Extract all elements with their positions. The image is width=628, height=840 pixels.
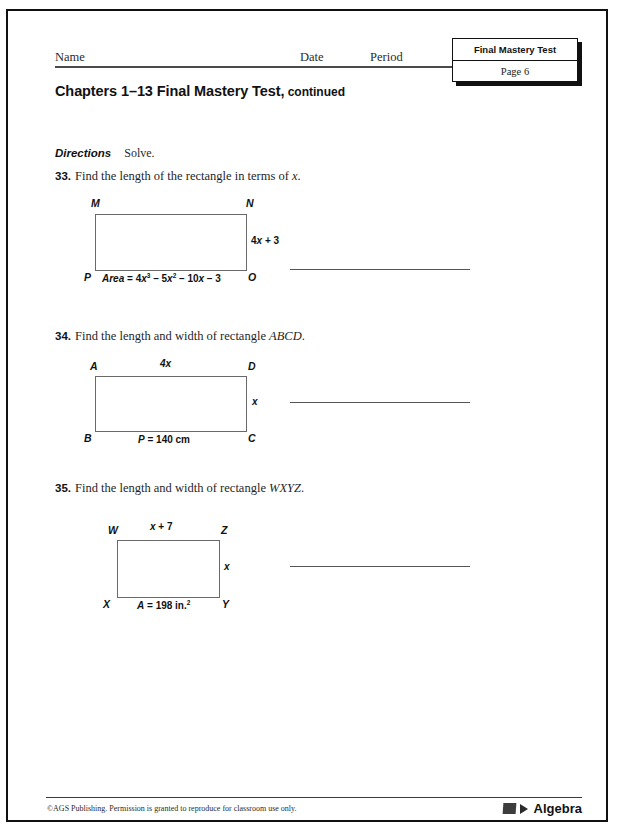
answer-line-34[interactable] xyxy=(290,402,470,403)
problem-34-number: 34. xyxy=(55,330,71,342)
figure-35-top-label: x + 7 xyxy=(150,521,173,532)
page-title: Chapters 1–13 Final Mastery Test, contin… xyxy=(55,83,345,99)
date-label: Date xyxy=(300,50,324,65)
corner-box-title-row: Final Mastery Test xyxy=(453,39,577,61)
problem-35-number: 35. xyxy=(55,482,71,494)
figure-33-vertex-bottom-right: O xyxy=(248,271,256,283)
answer-line-35[interactable] xyxy=(290,566,470,567)
figure-35-vertex-bottom-right: Y xyxy=(222,598,229,610)
directions: Directions Solve. xyxy=(55,143,155,161)
figure-33-rectangle xyxy=(95,214,247,271)
problem-34-stem: 34.Find the length and width of rectangl… xyxy=(55,329,305,344)
footer-copyright: ©AGS Publishing. Permission is granted t… xyxy=(47,804,297,813)
period-label: Period xyxy=(370,50,403,65)
footer-brand: Algebra xyxy=(503,801,582,816)
corner-title-text: Final Mastery Test xyxy=(474,44,556,55)
corner-box-page-row: Page 6 xyxy=(453,61,577,82)
header-rule xyxy=(55,66,455,68)
figure-34-side-label: x xyxy=(252,396,258,407)
figure-35-area-label: A = 198 in.2 xyxy=(137,600,190,611)
problem-35-period: . xyxy=(301,481,304,495)
figure-34-vertex-top-left: A xyxy=(90,360,98,372)
name-label: Name xyxy=(55,50,85,65)
problem-34-period: . xyxy=(302,329,305,343)
figure-35-vertex-bottom-left: X xyxy=(103,598,110,610)
problem-33-stem: 33.Find the length of the rectangle in t… xyxy=(55,169,301,184)
problem-33-number: 33. xyxy=(55,170,71,182)
page-title-continued: continued xyxy=(284,85,345,99)
figure-33-vertex-top-right: N xyxy=(246,197,254,209)
page-number-text: Page 6 xyxy=(501,66,529,77)
problem-35-stem: 35.Find the length and width of rectangl… xyxy=(55,481,304,496)
answer-line-33[interactable] xyxy=(290,269,470,270)
figure-34-perimeter-label: P = 140 cm xyxy=(138,434,190,445)
figure-34-vertex-bottom-left: B xyxy=(84,432,92,444)
book-icon xyxy=(502,803,516,814)
problem-33-text: Find the length of the rectangle in term… xyxy=(75,169,292,183)
figure-34-top-label: 4x xyxy=(160,358,171,369)
triangle-arrow-icon xyxy=(520,804,528,814)
page-title-main: Chapters 1–13 Final Mastery Test, xyxy=(55,83,284,99)
figure-35-vertex-top-left: W xyxy=(108,524,118,536)
test-identifier-box: Final Mastery Test Page 6 xyxy=(452,38,578,82)
problem-34-rectangle-name: ABCD xyxy=(269,329,302,343)
figure-33-vertex-bottom-left: P xyxy=(84,271,91,283)
figure-35-area-exponent: 2 xyxy=(187,599,191,606)
footer-rule xyxy=(46,797,582,798)
figure-34-vertex-top-right: D xyxy=(248,360,256,372)
directions-label: Directions xyxy=(55,147,111,159)
figure-33-area-label: Area = 4x3 – 5x2 – 10x – 3 xyxy=(102,273,221,284)
figure-34-rectangle xyxy=(95,376,247,432)
directions-text: Solve. xyxy=(124,146,154,160)
problem-35-rectangle-name: WXYZ xyxy=(269,481,301,495)
figure-34-vertex-bottom-right: C xyxy=(248,432,256,444)
brand-label: Algebra xyxy=(534,801,582,816)
figure-35-vertex-top-right: Z xyxy=(221,524,227,536)
problem-33-period: . xyxy=(298,169,301,183)
figure-33-vertex-top-left: M xyxy=(91,197,100,209)
figure-35-side-label: x xyxy=(224,561,230,572)
figure-33-height-label: 4x + 3 xyxy=(251,235,279,246)
problem-34-text: Find the length and width of rectangle xyxy=(75,329,269,343)
problem-35-text: Find the length and width of rectangle xyxy=(75,481,269,495)
figure-35-rectangle xyxy=(117,540,220,598)
